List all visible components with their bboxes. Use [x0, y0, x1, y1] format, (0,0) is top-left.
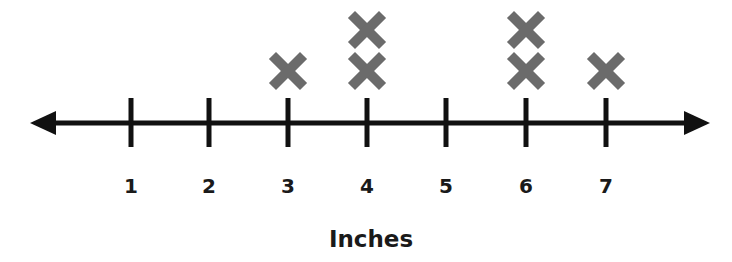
x-marker-icon — [355, 59, 379, 83]
x-marker-icon — [594, 59, 618, 83]
line-plot: 1234567 Inches — [0, 0, 732, 262]
x-marker-icon — [355, 18, 379, 42]
right-arrow-icon — [684, 111, 710, 135]
left-arrow-icon — [30, 111, 56, 135]
tick-label: 5 — [439, 174, 453, 198]
tick-label: 2 — [202, 174, 216, 198]
x-marker-icon — [514, 18, 538, 42]
x-marker-icon — [514, 59, 538, 83]
tick-label: 6 — [519, 174, 533, 198]
data-markers — [276, 18, 618, 83]
tick-label: 7 — [599, 174, 613, 198]
x-axis-title: Inches — [329, 226, 413, 252]
tick-label: 4 — [360, 174, 374, 198]
tick-label: 1 — [124, 174, 138, 198]
tick-labels: 1234567 — [124, 174, 613, 198]
tick-label: 3 — [281, 174, 295, 198]
x-marker-icon — [276, 59, 300, 83]
